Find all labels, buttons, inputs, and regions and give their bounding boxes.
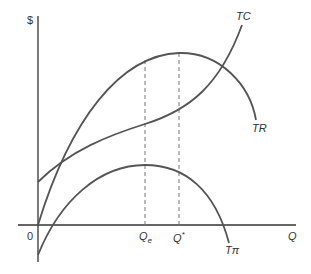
tpi-label: Tπ (225, 245, 239, 256)
y-axis-label: $ (27, 15, 33, 26)
qstar-label: Q* (173, 231, 185, 244)
qstar-sup: * (182, 230, 185, 239)
tr-curve (38, 53, 256, 225)
x-axis-label: Q (288, 231, 297, 242)
qe-sub: e (148, 236, 152, 245)
tc-label: TC (236, 11, 251, 22)
profit-diagram (0, 0, 311, 274)
qe-label: Qe (139, 231, 152, 245)
origin-label: 0 (27, 231, 33, 242)
tpi-curve (38, 165, 229, 255)
qe-main: Q (139, 230, 148, 242)
tc-curve (38, 25, 242, 182)
qstar-main: Q (173, 232, 182, 244)
tr-label: TR (252, 123, 267, 134)
